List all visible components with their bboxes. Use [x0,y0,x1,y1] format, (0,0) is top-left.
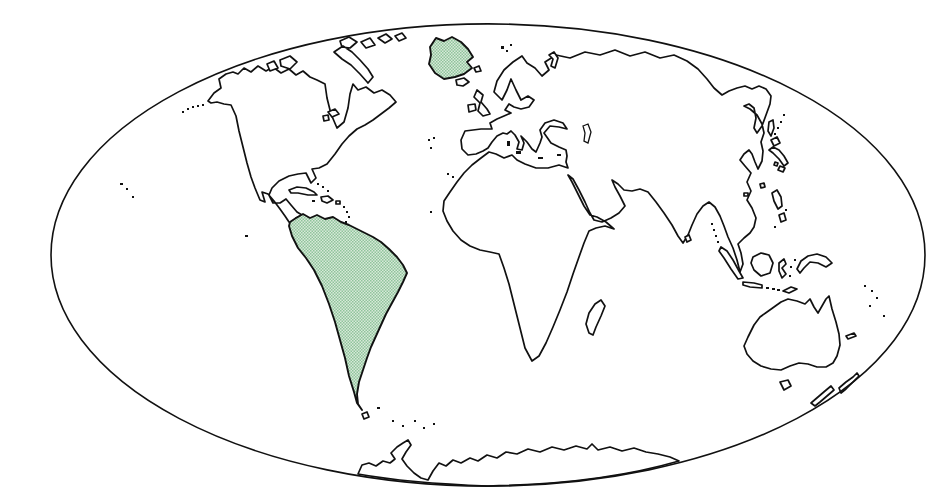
region-afro-eurasia [443,50,771,361]
dots-melanesia [864,285,885,317]
globe-ellipse-outline [51,24,925,486]
world-map-figure [40,16,930,491]
islands-japan [769,137,788,172]
island-iceland [456,78,469,86]
dots-south-atlantic-islands [377,407,435,429]
island-sakhalin [768,120,774,136]
islands-british-isles [468,90,490,116]
region-australia [744,296,840,370]
region-antarctica [358,440,679,486]
island-new-guinea [797,254,832,273]
island-tierra-del-fuego [362,412,369,419]
region-south-america-highlighted [289,214,407,410]
islands-philippines [772,190,786,222]
island-tasmania [780,380,791,390]
dots-aleutian-islands [182,104,204,113]
islet-southeast-greenland [474,66,481,72]
dots-svalbard [501,44,512,52]
world-map-svg [40,16,930,491]
region-north-america [208,66,396,226]
islands-new-zealand [811,373,859,406]
dots-pacific-islands [120,183,248,237]
island-new-caledonia [846,333,856,339]
island-sri-lanka [685,235,691,242]
region-greenland-highlighted [429,37,473,79]
island-madagascar [586,300,605,335]
islands-indonesia [719,247,797,293]
